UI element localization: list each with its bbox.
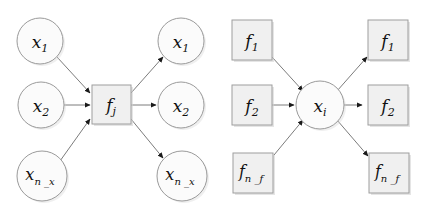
node-output-fnf: fn _f [369, 153, 411, 195]
node-input-f1: f1 [232, 20, 274, 62]
edge-f1-to-xi [272, 57, 303, 91]
box-shape [232, 85, 272, 125]
node-input-x2: x2 [18, 82, 66, 130]
node-output-x1: x1 [158, 18, 206, 66]
figure-canvas: x1 x2 xn _x fj [0, 0, 427, 210]
edge-fnf-to-xi [274, 120, 303, 155]
edge-x1-to-fj [57, 57, 90, 93]
node-output-f1: f1 [368, 20, 410, 62]
node-center-fj: fj [92, 85, 133, 126]
node-input-x1: x1 [17, 18, 65, 66]
edge-fj-to-x1 [131, 57, 163, 93]
box-shape [368, 20, 408, 60]
box-shape [232, 20, 272, 60]
edge-fj-to-xnx [131, 119, 163, 158]
box-shape [368, 85, 408, 125]
node-center-xi: xi [296, 81, 346, 131]
node-input-fnf: fn _f [233, 153, 275, 195]
edge-xi-to-f1 [337, 57, 367, 91]
edge-xi-to-fnf [337, 120, 368, 156]
node-output-xnx: xn _x [157, 151, 209, 203]
variable-node-panel: f1 f2 fn _f xi [232, 20, 411, 195]
node-output-f2: f2 [368, 85, 410, 127]
message-passing-diagram: x1 x2 xn _x fj [0, 0, 427, 210]
node-output-x2: x2 [158, 82, 206, 130]
node-input-f2: f2 [232, 85, 274, 127]
factor-node-panel: x1 x2 xn _x fj [17, 18, 209, 203]
edge-xnx-to-fj [60, 119, 90, 161]
